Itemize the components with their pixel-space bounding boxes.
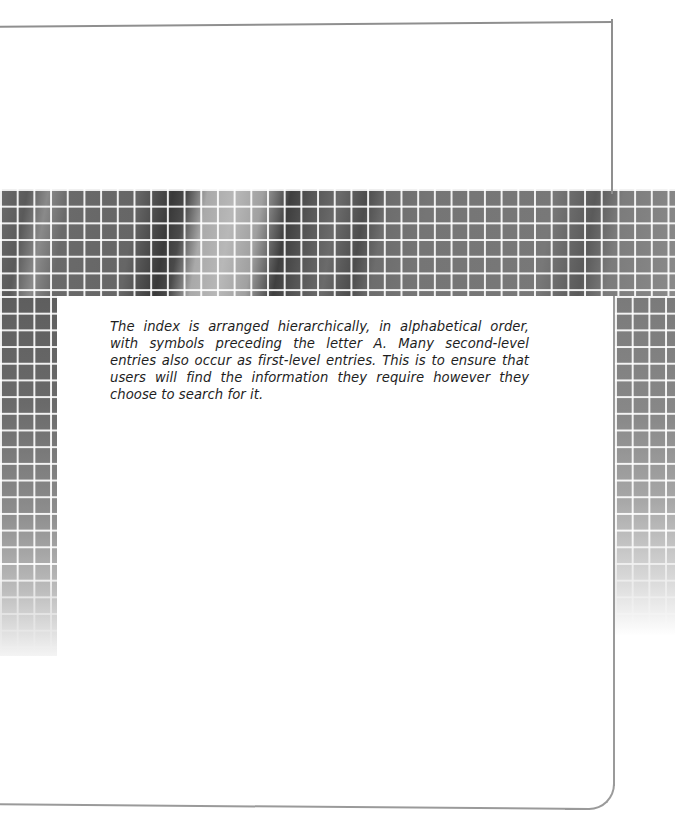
- grid-overlay: [0, 189, 675, 297]
- frame-right-border-lower: [613, 296, 615, 786]
- frame-top-border: [0, 21, 613, 28]
- photo-grid-band: [0, 189, 675, 297]
- frame-right-border: [611, 19, 613, 194]
- right-grid-column: [615, 296, 675, 636]
- index-intro-paragraph: The index is arranged hierarchically, in…: [110, 318, 529, 403]
- left-grid-column: [0, 296, 57, 656]
